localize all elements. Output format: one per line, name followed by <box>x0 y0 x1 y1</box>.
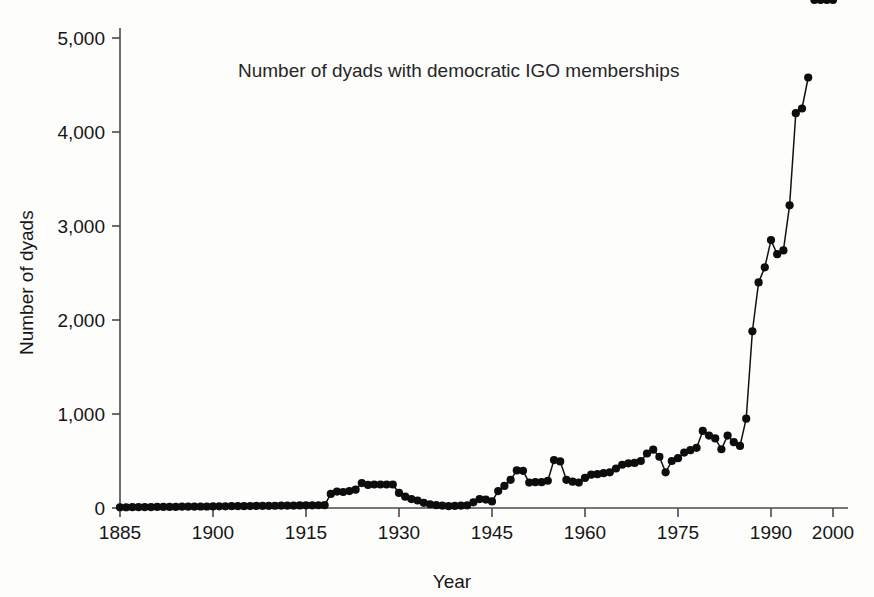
y-tick-label: 2,000 <box>57 310 105 331</box>
x-tick-label: 1915 <box>285 522 327 543</box>
series-data-point <box>742 415 750 423</box>
x-axis-ticks: 188519001915193019451960197519902000 <box>99 508 854 543</box>
y-axis-title: Number of dyads <box>16 210 37 355</box>
series-data-point <box>500 482 508 490</box>
y-tick-label: 3,000 <box>57 216 105 237</box>
series-data-point <box>798 104 806 112</box>
series-data-point <box>544 477 552 485</box>
x-axis-title: Year <box>433 571 472 592</box>
series-data-point <box>717 445 725 453</box>
series-data-point <box>767 236 775 244</box>
x-tick-label: 1900 <box>192 522 234 543</box>
series-data-point <box>321 501 329 509</box>
series-data-point <box>488 497 496 505</box>
series-data-point <box>829 0 837 4</box>
y-axis-ticks: 01,0002,0003,0004,0005,000 <box>57 28 120 519</box>
series-data-point <box>637 457 645 465</box>
series-data-point <box>711 434 719 442</box>
y-tick-label: 1,000 <box>57 404 105 425</box>
series-data-point <box>779 246 787 254</box>
x-tick-label: 1885 <box>99 522 141 543</box>
chart-figure: Number of dyads with democratic IGO memb… <box>0 0 874 597</box>
series-data-point <box>507 476 515 484</box>
series-data-point <box>519 467 527 475</box>
series-data-point <box>693 444 701 452</box>
series-data-point <box>755 278 763 286</box>
x-tick-label: 1975 <box>657 522 699 543</box>
series-data-point <box>389 480 397 488</box>
x-tick-label: 1945 <box>471 522 513 543</box>
series-data-point <box>655 453 663 461</box>
series-data-point <box>748 327 756 335</box>
x-tick-label: 1990 <box>750 522 792 543</box>
x-tick-label: 2000 <box>812 522 854 543</box>
y-tick-label: 4,000 <box>57 122 105 143</box>
series-line <box>120 77 808 507</box>
series-data-point <box>786 201 794 209</box>
series-data-point <box>736 442 744 450</box>
series-data-point <box>556 457 564 465</box>
series-data-point <box>674 454 682 462</box>
series-data-point <box>804 73 812 81</box>
series-data-point <box>761 263 769 271</box>
chart-title: Number of dyads with democratic IGO memb… <box>238 60 679 81</box>
series-data-point <box>724 432 732 440</box>
chart-canvas: Number of dyads with democratic IGO memb… <box>0 0 874 597</box>
series-data-point <box>662 468 670 476</box>
series-data-point <box>649 446 657 454</box>
x-tick-label: 1960 <box>564 522 606 543</box>
y-tick-label: 5,000 <box>57 28 105 49</box>
x-tick-label: 1930 <box>378 522 420 543</box>
y-tick-label: 0 <box>94 498 105 519</box>
series-data-point <box>352 486 360 494</box>
